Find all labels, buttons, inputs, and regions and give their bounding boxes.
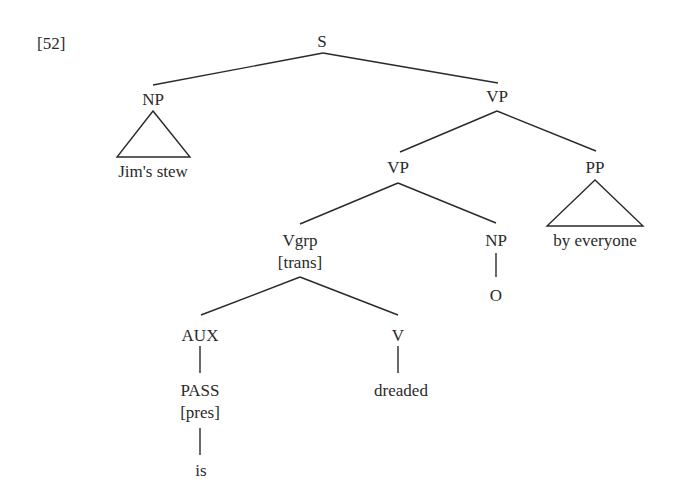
syntax-tree: [52] S NP Jim's stew VP PP by everyone V… — [0, 0, 685, 501]
leaf-dreaded: dreaded — [374, 381, 428, 400]
example-number: [52] — [37, 34, 65, 53]
edge-vp-vp — [400, 111, 497, 152]
node-vgrp: Vgrp — [283, 231, 318, 250]
node-s: S — [317, 32, 326, 51]
triangle-np-subject — [117, 111, 190, 157]
edge-s-np — [153, 53, 323, 85]
edge-vp-pp — [497, 111, 596, 151]
edge-vp-np — [398, 183, 496, 223]
node-aux: AUX — [182, 326, 219, 345]
leaf-pp: by everyone — [553, 231, 637, 250]
edge-vgrp-v — [300, 277, 398, 315]
node-np-subject: NP — [142, 90, 164, 109]
edge-s-vp — [323, 53, 498, 83]
leaf-np-object: O — [490, 286, 502, 305]
node-v: V — [392, 326, 405, 345]
edge-vp-vgrp — [300, 183, 398, 224]
triangle-pp — [547, 180, 643, 226]
node-pp: PP — [586, 158, 605, 177]
edge-vgrp-aux — [201, 277, 300, 315]
leaf-np-subject: Jim's stew — [118, 162, 188, 181]
feature-vgrp: [trans] — [278, 253, 322, 272]
leaf-is: is — [195, 461, 206, 480]
node-pass: PASS — [180, 381, 219, 400]
node-vp-inner: VP — [387, 158, 409, 177]
node-vp-top: VP — [486, 87, 508, 106]
node-np-object: NP — [485, 231, 507, 250]
feature-pass: [pres] — [180, 403, 220, 422]
